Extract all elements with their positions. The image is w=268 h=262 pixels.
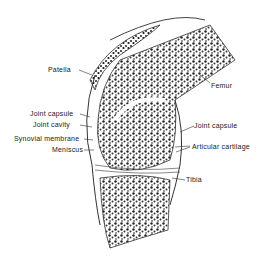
label-joint-capsule-right: Joint capsule [194, 122, 237, 130]
label-femur: Femur [211, 82, 232, 90]
knee-illustration [0, 0, 268, 262]
label-joint-cavity: Joint cavity [33, 121, 70, 129]
label-articular-cartilage: Articular cartilage [192, 143, 250, 151]
label-joint-capsule-left: Joint capsule [30, 110, 73, 118]
label-patella: Patella [48, 66, 71, 74]
knee-joint-diagram: Patella Femur Joint capsule Joint cavity… [0, 0, 268, 262]
tibia-shape [100, 175, 170, 248]
label-tibia: Tibia [186, 176, 202, 184]
label-meniscus: Meniscus [52, 146, 83, 154]
label-synovial-membrane: Synovial membrane [14, 135, 79, 143]
